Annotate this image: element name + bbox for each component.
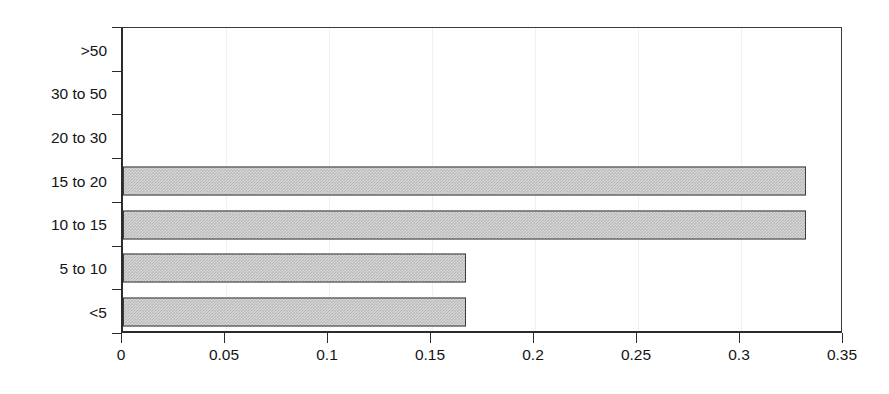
x-axis-tick-0.25 <box>636 333 637 343</box>
bar-lt5 <box>123 298 466 327</box>
y-axis-label-gt50: >50 <box>0 43 107 59</box>
x-axis-tick-0 <box>121 333 122 343</box>
x-axis-label-0.3: 0.3 <box>728 347 750 363</box>
x-axis-label-0.35: 0.35 <box>827 347 857 363</box>
bar-band-10-to-15 <box>123 203 841 247</box>
bar-band-lt5 <box>123 290 841 334</box>
x-axis-tick-0.1 <box>327 333 328 343</box>
plot-area <box>121 27 842 333</box>
y-axis-label-15-to-20: 15 to 20 <box>0 174 107 190</box>
y-axis-label-30-to-50: 30 to 50 <box>0 86 107 102</box>
x-axis-label-0.05: 0.05 <box>209 347 239 363</box>
x-axis-label-0.2: 0.2 <box>522 347 544 363</box>
x-axis-label-0.25: 0.25 <box>621 347 651 363</box>
x-axis-tick-0.2 <box>533 333 534 343</box>
x-axis-tick-0.35 <box>842 333 843 343</box>
bar-5-to-10 <box>123 254 466 283</box>
x-axis-tick-0.05 <box>224 333 225 343</box>
bar-band-30-to-50 <box>123 72 841 116</box>
y-axis-label-5-to-10: 5 to 10 <box>0 261 107 277</box>
x-axis-label-0.1: 0.1 <box>316 347 338 363</box>
y-axis-label-lt5: <5 <box>0 305 107 321</box>
bar-band-gt50 <box>123 28 841 72</box>
x-axis-tick-0.15 <box>430 333 431 343</box>
bar-band-5-to-10 <box>123 247 841 291</box>
bar-15-to-20 <box>123 166 806 195</box>
bar-10-to-15 <box>123 210 806 239</box>
bar-band-15-to-20 <box>123 159 841 203</box>
bar-band-20-to-30 <box>123 115 841 159</box>
bar-chart: >50 30 to 50 20 to 30 15 to 20 10 to 15 … <box>0 0 889 394</box>
y-axis-label-20-to-30: 20 to 30 <box>0 130 107 146</box>
x-axis-tick-0.3 <box>739 333 740 343</box>
x-axis-label-0.15: 0.15 <box>415 347 445 363</box>
x-axis-label-0: 0 <box>117 347 126 363</box>
y-axis-label-10-to-15: 10 to 15 <box>0 217 107 233</box>
